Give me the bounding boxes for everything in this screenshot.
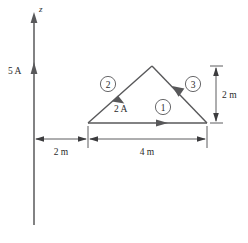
z-axis-arrow-icon — [31, 12, 38, 23]
dim-height-top-arrow-icon — [213, 67, 219, 76]
dim-height-bottom-arrow-icon — [213, 113, 219, 122]
wire-current-arrow-icon — [31, 62, 38, 74]
dim-2m-right-arrow-icon — [78, 136, 87, 142]
dim-label-loop-base: 4 m — [140, 147, 155, 157]
dim-4m-right-arrow-icon — [197, 136, 206, 142]
branch-3-direction-arrow-icon — [172, 86, 184, 97]
branch-2-label: 2 — [106, 80, 111, 90]
loop-edge-left — [88, 66, 152, 123]
horizontal-dimension-group: 2 m 4 m — [35, 126, 207, 157]
dim-label-loop-height: 2 m — [222, 90, 237, 100]
dim-2m-left-arrow-icon — [35, 136, 44, 142]
z-axis-label: z — [38, 4, 43, 14]
circuit-diagram: z 5 A 1 2 3 — [0, 0, 248, 243]
z-axis-group — [31, 12, 38, 225]
branch-tag-3: 3 — [185, 76, 200, 91]
triangle-loop-group — [88, 66, 207, 127]
wire-current-label: 5 A — [8, 66, 22, 76]
dim-label-wire-to-loop: 2 m — [54, 147, 69, 157]
figure-container: z 5 A 1 2 3 — [0, 0, 248, 243]
dim-4m-left-arrow-icon — [89, 136, 98, 142]
branch-tag-1: 1 — [155, 99, 170, 114]
branch-1-direction-arrow-icon — [156, 119, 168, 126]
vertical-dimension-group: 2 m — [210, 66, 237, 123]
loop-current-label: 2 A — [114, 104, 128, 114]
branch-1-label: 1 — [161, 103, 166, 113]
branch-tag-2: 2 — [100, 76, 115, 91]
branch-3-label: 3 — [191, 80, 196, 90]
